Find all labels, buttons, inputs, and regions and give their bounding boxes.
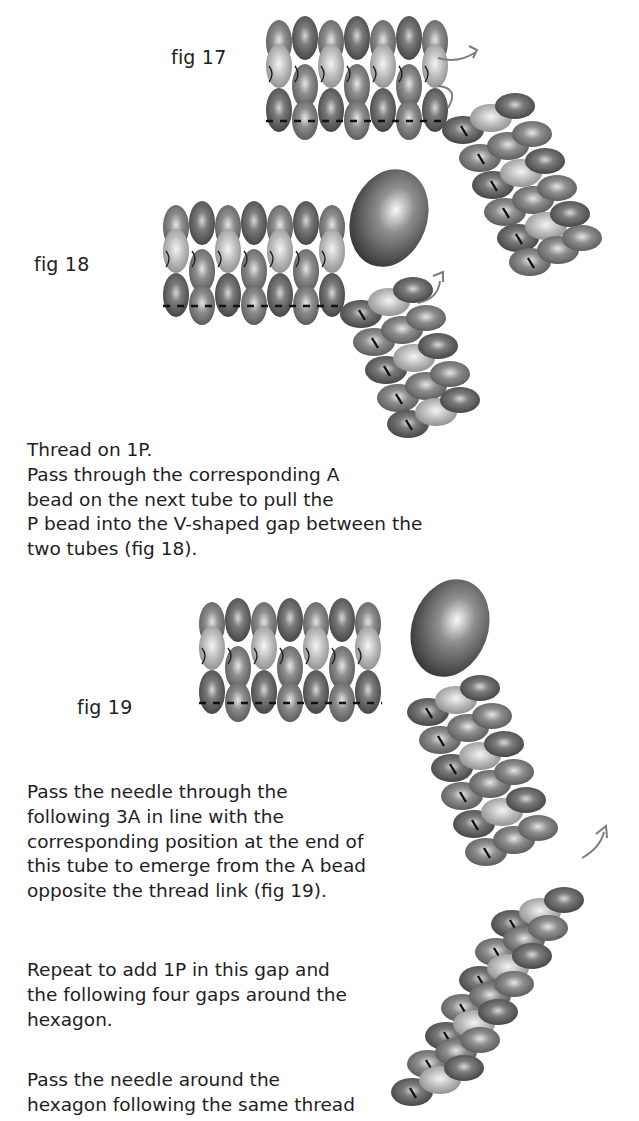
instruction-paragraph-2: Pass the needle through the following 3A… bbox=[27, 780, 366, 904]
text-line: hexagon following the same thread bbox=[27, 1093, 355, 1118]
fig18-p-bead bbox=[336, 158, 442, 278]
fig19-diagonal-tube-upper bbox=[407, 675, 558, 866]
fig18-horizontal-tube bbox=[163, 201, 346, 325]
text-line: the following four gaps around the bbox=[27, 983, 347, 1008]
fig18-label: fig 18 bbox=[34, 253, 89, 275]
fig19-p-bead bbox=[397, 568, 503, 688]
instruction-paragraph-4: Pass the needle around the hexagon follo… bbox=[27, 1068, 355, 1118]
text-line: this tube to emerge from the A bead bbox=[27, 854, 366, 879]
fig19-thread-arrow bbox=[582, 826, 607, 858]
text-line: hexagon. bbox=[27, 1008, 347, 1033]
text-line: Pass the needle through the bbox=[27, 780, 366, 805]
text-line: bead on the next tube to pull the bbox=[27, 488, 422, 513]
text-line: Pass through the corresponding A bbox=[27, 463, 422, 488]
fig19-horizontal-tube bbox=[199, 598, 382, 722]
fig17-horizontal-tube bbox=[266, 16, 449, 140]
fig19-diagonal-tube-lower bbox=[391, 887, 584, 1106]
instruction-paragraph-3: Repeat to add 1P in this gap and the fol… bbox=[27, 958, 347, 1032]
text-line: opposite the thread link (fig 19). bbox=[27, 879, 366, 904]
fig18-diagonal-tube bbox=[340, 277, 480, 438]
fig17-diagonal-tube bbox=[442, 93, 602, 276]
fig19-label: fig 19 bbox=[77, 696, 132, 718]
instruction-paragraph-1: Thread on 1P. Pass through the correspon… bbox=[27, 438, 422, 562]
text-line: corresponding position at the end of bbox=[27, 830, 366, 855]
text-line: following 3A in line with the bbox=[27, 805, 366, 830]
fig17-label: fig 17 bbox=[171, 46, 226, 68]
text-line: Thread on 1P. bbox=[27, 438, 422, 463]
text-line: P bead into the V-shaped gap between the bbox=[27, 512, 422, 537]
text-line: Pass the needle around the bbox=[27, 1068, 355, 1093]
text-line: two tubes (fig 18). bbox=[27, 537, 422, 562]
text-line: Repeat to add 1P in this gap and bbox=[27, 958, 347, 983]
